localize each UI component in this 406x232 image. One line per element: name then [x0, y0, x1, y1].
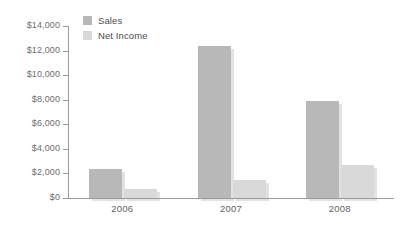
bar-sales-2006[interactable]	[89, 169, 122, 198]
bar-fill	[341, 165, 374, 198]
y-axis-tick-label: $6,000	[4, 118, 60, 128]
bar-net-income-2006[interactable]	[124, 189, 157, 198]
bar-fill	[198, 46, 231, 198]
y-axis-tick-label: $12,000	[4, 45, 60, 55]
legend-label: Sales	[98, 15, 122, 26]
legend-swatch-icon	[83, 31, 92, 40]
bar-fill	[124, 189, 157, 198]
bar-sales-2008[interactable]	[306, 101, 339, 198]
bar-net-income-2007[interactable]	[233, 180, 266, 198]
bar-fill	[233, 180, 266, 198]
bar-shadow	[231, 49, 234, 201]
legend-item-sales[interactable]: Sales	[83, 14, 148, 27]
y-axis-labels: $0$2,000$4,000$6,000$8,000$10,000$12,000…	[0, 0, 60, 232]
y-axis-tick-label: $2,000	[4, 167, 60, 177]
bar-group	[306, 26, 374, 198]
bar-group	[198, 26, 266, 198]
bar-net-income-2008[interactable]	[341, 165, 374, 198]
x-axis-tick-label: 2007	[177, 203, 286, 221]
bar-sales-2007[interactable]	[198, 46, 231, 198]
chart-legend: SalesNet Income	[83, 14, 148, 44]
x-axis-line	[68, 198, 394, 199]
legend-swatch-icon	[83, 16, 92, 25]
y-axis-tick-label: $4,000	[4, 143, 60, 153]
bar-chart: $0$2,000$4,000$6,000$8,000$10,000$12,000…	[0, 0, 406, 232]
x-axis-tick-label: 2008	[285, 203, 394, 221]
legend-label: Net Income	[98, 30, 148, 41]
y-axis-tick-label: $0	[4, 192, 60, 202]
y-axis-tick-label: $10,000	[4, 69, 60, 79]
plot-area	[69, 26, 394, 198]
bar-fill	[89, 169, 122, 198]
x-axis-tick-label: 2006	[68, 203, 177, 221]
y-axis-tick-label: $14,000	[4, 20, 60, 30]
x-axis-labels: 200620072008	[68, 203, 394, 221]
legend-item-net-income[interactable]: Net Income	[83, 29, 148, 42]
bar-fill	[306, 101, 339, 198]
bar-group	[89, 26, 157, 198]
bar-shadow	[374, 168, 377, 201]
y-axis-tick-label: $8,000	[4, 94, 60, 104]
